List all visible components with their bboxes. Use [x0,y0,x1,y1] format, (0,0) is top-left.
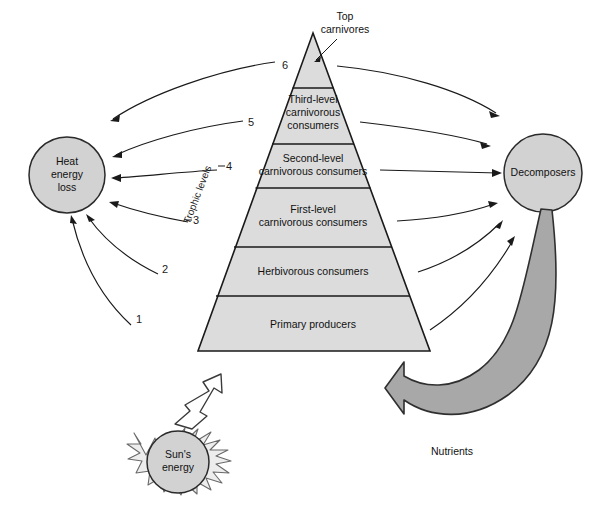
tier-label-line: Third-level [288,93,337,105]
primary-producers-tier: Primary producers [270,318,356,330]
ecology-energy-pyramid-diagram: Third-level carnivorous consumers Second… [0,0,605,531]
tier-label-line: carnivorous [286,106,340,118]
callout-line: carnivores [321,23,369,35]
pyramid-shape [198,33,430,351]
tier-label-line: Second-level [283,152,344,164]
heat-energy-loss-node: Heat energy loss [29,137,105,213]
trophic-number-2: 2 [162,263,168,275]
solar-input-arrow [175,374,222,429]
herbivorous-consumers-tier: Herbivorous consumers [258,265,369,277]
suns-energy-node: Sun's energy [127,428,231,495]
node-label: Decomposers [511,166,576,178]
top-carnivores-callout: Top carnivores [314,10,369,62]
decomposers-node: Decomposers [504,134,582,212]
third-level-carnivores-tier: Third-level carnivorous consumers [286,93,340,131]
tier-label-line: carnivorous consumers [259,165,368,177]
tier-label-line: First-level [290,203,336,215]
trophic-number-4: 4 [226,160,232,172]
trophic-number-6: 6 [282,59,288,71]
trophic-number-1: 1 [136,313,142,325]
callout-line: Top [337,10,354,22]
node-label-line: Heat [56,155,78,167]
tier-label-line: consumers [287,119,338,131]
node-label-line: energy [162,461,195,473]
tier-label-line: Primary producers [270,318,356,330]
trophic-number-5: 5 [248,116,254,128]
tier-label-line: carnivorous consumers [259,216,368,228]
node-label-line: Sun's [165,448,191,460]
node-label-line: energy [51,168,84,180]
nutrients-label: Nutrients [431,445,473,457]
tier-label-line: Herbivorous consumers [258,265,369,277]
node-label-line: loss [58,181,77,193]
